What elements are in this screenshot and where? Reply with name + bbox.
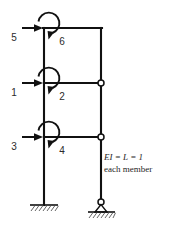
dof-label-1: 1	[11, 87, 17, 98]
dof-label-2: 2	[59, 91, 65, 102]
dof-label-5: 5	[11, 32, 17, 43]
force-arrow-3	[22, 133, 43, 141]
property-note: EI = L = 1 each member	[103, 152, 152, 174]
dof-label-3: 3	[11, 141, 17, 152]
moment-arc-2	[39, 68, 60, 95]
force-arrow-1	[22, 79, 43, 87]
support-pin-right	[88, 199, 116, 218]
hinge-lower-beam	[98, 134, 104, 140]
dof-label-4: 4	[59, 145, 65, 156]
frame-members	[43, 28, 102, 205]
note-line-ei: EI = L = 1	[103, 152, 143, 162]
pin-support-hatching	[89, 213, 116, 219]
moment-arc-4	[39, 122, 60, 149]
frame-diagram: 5 6 1 2 3 4 EI = L = 1 each member	[0, 0, 183, 234]
frame-diagram-canvas: 5 6 1 2 3 4 EI = L = 1 each member	[0, 0, 183, 234]
force-arrow-5	[22, 24, 43, 32]
dof-label-6: 6	[59, 36, 65, 47]
fixed-support-hatching	[31, 206, 59, 212]
force-arrows	[22, 24, 43, 141]
moment-arcs	[39, 13, 60, 149]
moment-arc-6	[39, 13, 60, 40]
note-line-each-member: each member	[104, 164, 152, 174]
hinge-middle-beam	[98, 80, 104, 86]
